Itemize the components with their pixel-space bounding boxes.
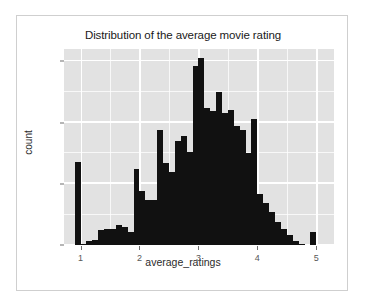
x-tick-label: 5 bbox=[314, 253, 319, 263]
x-tick-mark bbox=[257, 246, 258, 250]
x-tick-label: 3 bbox=[196, 253, 201, 263]
figure-frame: Distribution of the average movie rating… bbox=[16, 15, 348, 291]
gridline-minor-x bbox=[110, 49, 111, 245]
gridline-major-x bbox=[81, 49, 82, 245]
histogram-bar bbox=[75, 162, 81, 245]
x-tick-label: 4 bbox=[255, 253, 260, 263]
x-tick-mark bbox=[316, 246, 317, 250]
gridline-major-x bbox=[316, 49, 317, 245]
plot-panel bbox=[64, 49, 334, 245]
histogram-bar bbox=[310, 232, 316, 245]
chart-title: Distribution of the average movie rating bbox=[17, 29, 349, 41]
x-tick-mark bbox=[139, 246, 140, 250]
x-axis-title: average_ratings bbox=[17, 256, 349, 268]
x-tick-label: 2 bbox=[137, 253, 142, 263]
gridline-minor-x bbox=[287, 49, 288, 245]
histogram-bar bbox=[299, 244, 305, 245]
x-tick-mark bbox=[81, 246, 82, 250]
x-tick-label: 1 bbox=[78, 253, 83, 263]
y-axis-title: count bbox=[23, 103, 34, 183]
x-tick-mark bbox=[198, 246, 199, 250]
